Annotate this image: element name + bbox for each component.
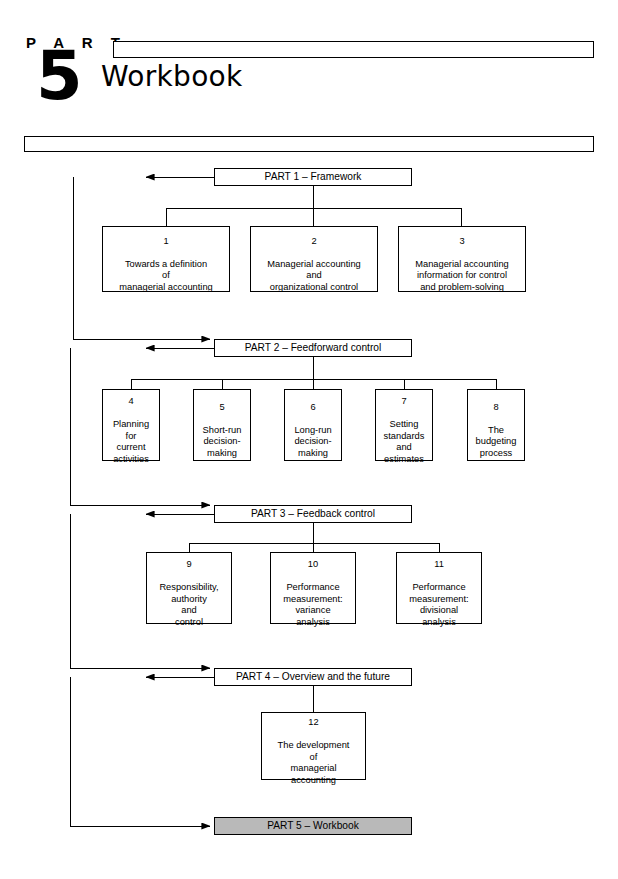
chapter-box-4[interactable]: 4 Planning for current activities [102,389,160,461]
part-box-1[interactable]: PART 1 – Framework [214,168,412,186]
chapter-title: Setting standards and estimates [384,419,425,463]
chapter-box-10[interactable]: 10 Performance measurement: variance ana… [270,552,356,624]
part-box-2[interactable]: PART 2 – Feedforward control [214,339,412,357]
chapter-number: 4 [113,396,149,407]
chapter-title: Planning for current activities [113,419,149,463]
chapter-number: 3 [415,236,509,247]
chapter-number: 1 [119,236,213,247]
chapter-box-12[interactable]: 12 The development of managerial account… [261,712,366,780]
chapter-title: Responsibility, authority and control [159,582,218,626]
chapter-number: 6 [294,402,331,413]
chapter-number: 11 [409,559,468,570]
part-box-3[interactable]: PART 3 – Feedback control [214,505,412,523]
chapter-title: Towards a definition of managerial accou… [119,259,213,292]
chapter-title: Performance measurement: variance analys… [283,582,342,626]
chapter-number: 2 [267,236,361,247]
chapter-title: Managerial accounting information for co… [415,259,509,292]
chapter-title: Performance measurement: divisional anal… [409,582,468,626]
chapter-box-5[interactable]: 5 Short-run decision- making [193,389,251,461]
chapter-box-3[interactable]: 3 Managerial accounting information for … [398,226,526,292]
chapter-box-8[interactable]: 8 The budgeting process [467,389,525,461]
chapter-title: The development of managerial accounting [278,740,350,784]
chapter-title: Short-run decision- making [203,425,242,458]
page-root: P A R T 5 Workbook [0,0,618,879]
part-box-4[interactable]: PART 4 – Overview and the future [214,668,412,686]
chapter-box-11[interactable]: 11 Performance measurement: divisional a… [396,552,482,624]
chapter-title: Long-run decision- making [294,425,331,458]
chapter-box-7[interactable]: 7 Setting standards and estimates [375,389,433,461]
chapter-box-6[interactable]: 6 Long-run decision- making [284,389,342,461]
chapter-title: The budgeting process [476,425,517,458]
chapter-title: Managerial accounting and organizational… [267,259,361,292]
chapter-number: 10 [283,559,342,570]
chapter-box-2[interactable]: 2 Managerial accounting and organization… [250,226,378,292]
chapter-number: 5 [203,402,242,413]
chapter-number: 12 [278,717,350,728]
chapter-box-9[interactable]: 9 Responsibility, authority and control [146,552,232,624]
chapter-number: 8 [476,402,517,413]
chapter-number: 9 [159,559,218,570]
chapter-number: 7 [384,396,425,407]
structure-diagram: PART 1 – Framework PART 2 – Feedforward … [0,0,618,879]
chapter-box-1[interactable]: 1 Towards a definition of managerial acc… [102,226,230,292]
part-box-5[interactable]: PART 5 – Workbook [214,817,412,835]
